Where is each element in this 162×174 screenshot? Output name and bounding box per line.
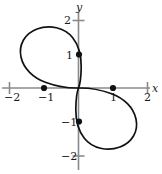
y-tick-label-1: 1 <box>66 50 73 61</box>
x-tick-label--2: −2 <box>4 92 20 103</box>
x-tick-label--1: −1 <box>38 92 54 103</box>
marked-point-0-1 <box>76 51 82 57</box>
graph-figure: −2 −1 1 2 2 1 −1 −2 x y <box>0 0 162 174</box>
x-axis-label: x <box>152 83 158 94</box>
x-tick-label-1: 1 <box>110 92 117 103</box>
y-tick-label--1: −1 <box>61 117 77 128</box>
x-tick-label-2: 2 <box>144 92 151 103</box>
y-tick-label-2: 2 <box>64 15 71 26</box>
curve-lower-right-lobe <box>76 88 137 149</box>
y-tick-label--2: −2 <box>61 151 77 162</box>
y-axis-label: y <box>76 2 82 13</box>
plot-canvas <box>0 0 162 174</box>
